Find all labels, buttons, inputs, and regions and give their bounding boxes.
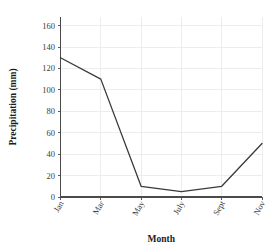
axis-spines — [61, 17, 263, 197]
y-axis-tick-labels: 020406080100120140160 — [42, 21, 55, 202]
y-tick-label: 0 — [51, 192, 55, 202]
y-tick-label: 160 — [42, 21, 55, 31]
x-tick-label: Sept — [211, 198, 228, 217]
x-axis-tick-labels: JanMarMayJulySeptNov — [51, 198, 267, 217]
y-tick-label: 100 — [42, 85, 55, 95]
y-tick-label: 20 — [47, 171, 56, 181]
x-tick-label: May — [130, 198, 147, 217]
y-tick-label: 140 — [42, 42, 55, 52]
x-tick-label: Nov — [251, 198, 267, 216]
x-tick-label: Mar — [90, 199, 106, 216]
y-tick-label: 40 — [47, 149, 56, 159]
y-tick-label: 120 — [42, 63, 55, 73]
chart-canvas: 020406080100120140160 JanMarMayJulySeptN… — [0, 0, 274, 251]
x-axis-title: Month — [148, 234, 176, 244]
tick-marks — [58, 26, 263, 200]
gridlines — [61, 17, 263, 197]
precipitation-line-chart: 020406080100120140160 JanMarMayJulySeptN… — [0, 0, 274, 251]
y-tick-label: 60 — [47, 128, 56, 138]
precipitation-data-line — [61, 58, 263, 192]
y-axis-title: Precipitation (mm) — [8, 68, 19, 145]
y-tick-label: 80 — [47, 106, 56, 116]
x-tick-label: July — [171, 198, 187, 216]
